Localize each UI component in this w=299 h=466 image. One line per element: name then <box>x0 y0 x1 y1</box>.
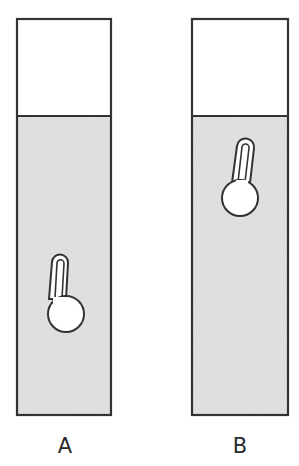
container-label-a: A <box>45 434 85 458</box>
air-region-b <box>192 19 288 116</box>
container-label-b: B <box>220 434 260 458</box>
diagram-canvas <box>0 0 299 466</box>
container-b <box>192 19 288 415</box>
container-a <box>17 19 111 415</box>
air-region-a <box>17 19 111 116</box>
